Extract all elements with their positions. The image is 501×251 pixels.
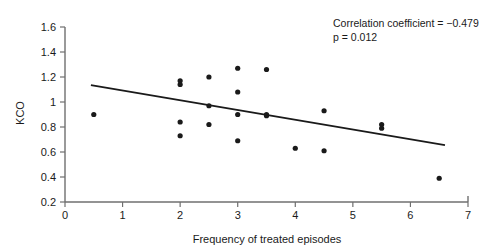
data-point (264, 67, 269, 72)
data-point (264, 113, 269, 118)
data-point (379, 126, 384, 131)
x-tick-label: 6 (407, 209, 413, 221)
correlation-annotation: Correlation coefficient = −0.479 (333, 17, 479, 29)
x-tick-label: 0 (62, 209, 68, 221)
x-axis-label: Frequency of treated episodes (193, 233, 342, 245)
data-point (235, 112, 240, 117)
data-point (321, 108, 326, 113)
x-tick-labels: 01234567 (62, 209, 471, 221)
y-tick-label: 0.6 (41, 146, 56, 158)
x-tick-label: 2 (177, 209, 183, 221)
pvalue-annotation: p = 0.012 (333, 31, 377, 43)
data-point (206, 122, 211, 127)
x-tick-label: 5 (350, 209, 356, 221)
y-tick-label: 0.8 (41, 121, 56, 133)
y-tick-label: 1.2 (41, 71, 56, 83)
data-point (178, 133, 183, 138)
y-tick-label: 0.2 (41, 196, 56, 208)
data-point (235, 66, 240, 71)
axis-ticks (60, 27, 468, 207)
x-tick-label: 4 (292, 209, 298, 221)
y-tick-label: 1.4 (41, 46, 56, 58)
data-point (437, 176, 442, 181)
scatter-plot-figure: 01234567 0.20.40.60.811.21.41.6 Frequenc… (0, 0, 501, 251)
y-tick-label: 1 (50, 96, 56, 108)
y-tick-labels: 0.20.40.60.811.21.41.6 (41, 21, 56, 208)
x-tick-label: 1 (120, 209, 126, 221)
data-points (91, 66, 442, 181)
data-point (321, 148, 326, 153)
x-tick-label: 7 (465, 209, 471, 221)
chart-canvas: 01234567 0.20.40.60.811.21.41.6 Frequenc… (0, 0, 501, 251)
x-tick-label: 3 (235, 209, 241, 221)
data-point (178, 119, 183, 124)
y-tick-label: 0.4 (41, 171, 56, 183)
data-point (178, 82, 183, 87)
data-point (235, 89, 240, 94)
data-point (206, 74, 211, 79)
y-axis-label: KCO (14, 101, 26, 125)
data-point (293, 146, 298, 151)
data-point (206, 103, 211, 108)
data-point (91, 112, 96, 117)
data-point (235, 138, 240, 143)
y-tick-label: 1.6 (41, 21, 56, 33)
